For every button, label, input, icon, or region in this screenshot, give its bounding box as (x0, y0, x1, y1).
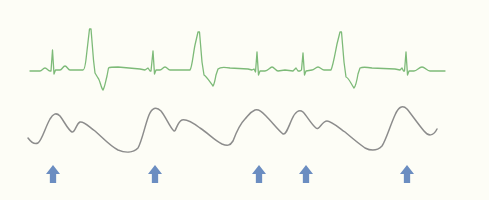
arrow-up-icon (299, 165, 313, 183)
arrow-up-icon (148, 165, 162, 183)
diagram-svg (0, 0, 489, 200)
arrow-up-icon (46, 165, 60, 183)
beat-markers (46, 165, 414, 183)
arrow-up-icon (400, 165, 414, 183)
ecg-pulse-diagram (0, 0, 489, 200)
ecg-trace (30, 29, 445, 90)
arrow-up-icon (252, 165, 266, 183)
pulse-trace (28, 107, 437, 152)
